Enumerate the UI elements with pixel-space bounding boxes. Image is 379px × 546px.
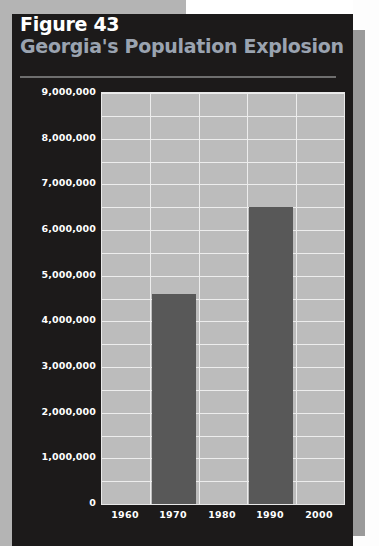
gridline-horizontal [102, 139, 344, 140]
gridline-horizontal [102, 93, 344, 94]
gridline-horizontal [102, 367, 344, 368]
y-axis-tick-label: 0 [4, 497, 96, 508]
y-axis-tick-label: 3,000,000 [4, 360, 96, 371]
x-axis-tick-label: 1980 [198, 509, 246, 520]
backdrop-shadow-right [353, 30, 365, 536]
gridline-vertical [296, 93, 297, 504]
gridline-horizontal [102, 253, 344, 254]
y-axis-tick-label: 5,000,000 [4, 269, 96, 280]
y-axis-tick-label: 6,000,000 [4, 223, 96, 234]
chart-title-block: Figure 43 Georgia's Population Explosion [20, 14, 330, 57]
gridline-horizontal [102, 162, 344, 163]
gridline-horizontal [102, 436, 344, 437]
gridline-horizontal [102, 184, 344, 185]
x-axis: 19601970198019902000 [101, 509, 345, 531]
x-axis-tick-label: 1960 [101, 509, 149, 520]
gridline-horizontal [102, 207, 344, 208]
y-axis-tick-label: 8,000,000 [4, 132, 96, 143]
gridline-horizontal [102, 116, 344, 117]
gridline-horizontal [102, 321, 344, 322]
x-axis-tick-label: 2000 [295, 509, 343, 520]
bar-1990 [249, 207, 293, 504]
y-axis-tick-label: 2,000,000 [4, 406, 96, 417]
plot-area [101, 92, 345, 505]
bar-1970 [152, 294, 196, 504]
gridline-vertical [199, 93, 200, 504]
gridline-vertical [247, 93, 248, 504]
x-axis-tick-label: 1970 [149, 509, 197, 520]
y-axis-tick-label: 7,000,000 [4, 177, 96, 188]
page-title: Georgia's Population Explosion [20, 35, 330, 57]
gridline-horizontal [102, 276, 344, 277]
gridline-horizontal [102, 299, 344, 300]
x-axis-tick-label: 1990 [246, 509, 294, 520]
gridline-horizontal [102, 344, 344, 345]
gridline-horizontal [102, 390, 344, 391]
figure-number: Figure 43 [20, 14, 330, 35]
gridline-horizontal [102, 413, 344, 414]
gridline-vertical [150, 93, 151, 504]
y-axis-tick-label: 4,000,000 [4, 314, 96, 325]
gridline-horizontal [102, 481, 344, 482]
gridline-horizontal [102, 230, 344, 231]
y-axis-tick-label: 9,000,000 [4, 86, 96, 97]
gridline-horizontal [102, 458, 344, 459]
gridline-horizontal [102, 504, 344, 505]
y-axis: 01,000,0002,000,0003,000,0004,000,0005,0… [0, 92, 96, 505]
title-divider [20, 76, 336, 78]
y-axis-tick-label: 1,000,000 [4, 451, 96, 462]
